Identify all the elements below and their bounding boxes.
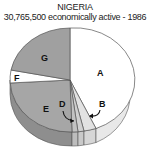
- label-a: A: [97, 68, 104, 78]
- label-d: D: [59, 99, 66, 109]
- pie-top: [10, 28, 135, 132]
- pie-chart: G A F E D B: [0, 0, 150, 154]
- label-b: B: [99, 99, 106, 109]
- label-g: G: [41, 53, 48, 63]
- label-e: E: [43, 104, 49, 114]
- label-f: F: [14, 73, 20, 83]
- slice-c-side: [78, 131, 84, 146]
- slice-d-side: [72, 132, 78, 146]
